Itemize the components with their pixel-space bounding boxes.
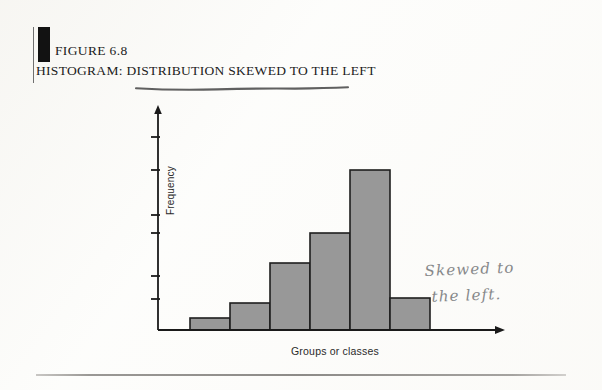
bar-4 bbox=[310, 233, 350, 330]
x-axis-label: Groups or classes bbox=[245, 345, 425, 357]
histogram-chart: Frequency Groups or classes bbox=[120, 100, 520, 370]
y-axis-label: Frequency bbox=[165, 146, 176, 236]
bar-3 bbox=[270, 263, 310, 330]
histogram-svg bbox=[120, 100, 520, 370]
bar-6 bbox=[390, 298, 430, 330]
handdrawn-title-underline bbox=[135, 85, 350, 92]
handwritten-annotation: Skewed to the left. bbox=[424, 252, 591, 310]
y-axis bbox=[151, 105, 162, 330]
figure-number: FIGURE 6.8 bbox=[55, 43, 128, 59]
annotation-line-1: Skewed to bbox=[424, 259, 515, 280]
bar-2 bbox=[230, 303, 270, 330]
bars-group bbox=[190, 170, 430, 330]
bar-5 bbox=[350, 170, 390, 330]
bar-1 bbox=[190, 318, 230, 330]
figure-title: HISTOGRAM: DISTRIBUTION SKEWED TO THE LE… bbox=[36, 63, 376, 79]
caption-vertical-rule bbox=[33, 27, 34, 83]
figure-marker-block bbox=[38, 27, 50, 62]
page-bottom-rule bbox=[36, 374, 566, 376]
